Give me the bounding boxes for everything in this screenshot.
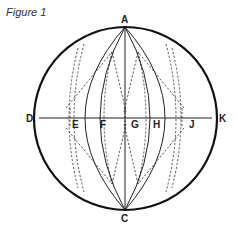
label-f: F bbox=[100, 119, 106, 130]
globe-diagram: A C D E F G H J K bbox=[0, 0, 236, 234]
label-g: G bbox=[131, 119, 139, 130]
label-d: D bbox=[26, 113, 33, 124]
label-e: E bbox=[72, 119, 79, 130]
label-a: A bbox=[121, 14, 128, 25]
label-c: C bbox=[121, 213, 128, 224]
label-k: K bbox=[219, 113, 227, 124]
label-j: J bbox=[189, 119, 195, 130]
label-h: H bbox=[153, 119, 160, 130]
